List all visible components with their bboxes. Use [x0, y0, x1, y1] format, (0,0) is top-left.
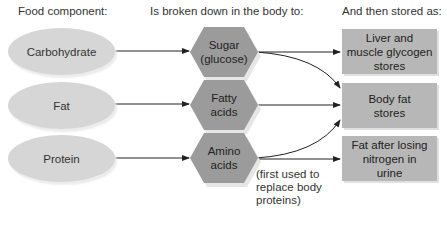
arrow-sugar-to-body-fat [256, 52, 340, 88]
note-line2: replace body [256, 181, 322, 193]
breakdown-line2: acids [211, 159, 238, 171]
storage-line3: stores [374, 60, 405, 72]
breakdown-line1: Fatty [211, 92, 237, 104]
arrow-amino-acids-to-body-fat [256, 120, 340, 158]
storage-line1: Body fat [368, 93, 410, 105]
breakdown-sugar: Sugar(glucose) [190, 27, 258, 77]
food-component-label: Carbohydrate [27, 46, 97, 58]
note-line1: (first used to [256, 168, 319, 180]
breakdown-line2: (glucose) [200, 53, 247, 65]
storage-glycogen: Liver andmuscle glycogenstores [342, 29, 437, 74]
storage-line3: urine [377, 167, 403, 179]
storage-line2: muscle glycogen [347, 46, 433, 58]
food-component-label: Protein [43, 153, 79, 165]
storage-line2: stores [374, 107, 405, 119]
food-component-protein: Protein [8, 135, 115, 182]
storage-fat-after-nitrogen: Fat after losingnitrogen inurine [342, 136, 437, 181]
food-component-label: Fat [53, 100, 70, 112]
storage-line1: Liver and [366, 32, 413, 44]
breakdown-line1: Sugar [209, 39, 240, 51]
breakdown-amino-acids: Aminoacids [190, 133, 258, 183]
storage-line1: Fat after losing [351, 139, 427, 151]
breakdown-fatty-acids: Fattyacids [190, 80, 258, 130]
amino-acids-note: (first used to replace body proteins) [256, 168, 322, 207]
food-component-carbohydrate: Carbohydrate [8, 28, 115, 75]
breakdown-line1: Amino [208, 145, 241, 157]
food-component-fat: Fat [8, 82, 115, 129]
storage-body-fat: Body fatstores [342, 83, 437, 128]
breakdown-line2: acids [211, 106, 238, 118]
note-line3: proteins) [256, 194, 301, 206]
storage-line2: nitrogen in [363, 153, 417, 165]
